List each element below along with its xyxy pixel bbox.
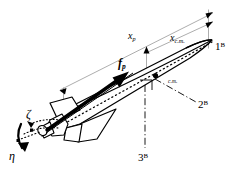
arrowhead-outer-left — [60, 88, 67, 95]
label-eta: η — [9, 150, 15, 162]
zeta-arrowhead — [27, 121, 34, 128]
eta-square-marker-2 — [17, 139, 20, 142]
arrowhead-xcm-right — [206, 22, 214, 29]
arrowhead-outer-right — [206, 12, 214, 19]
label-zeta: ζ — [26, 108, 31, 120]
label-axis-1B: 1B — [215, 41, 225, 52]
label-x-cm: xc.m. — [170, 33, 185, 43]
label-axis-2B: 2B — [198, 99, 208, 110]
rocket-hull — [62, 40, 212, 128]
eta-square-marker — [30, 129, 33, 132]
label-axis-3B: 3B — [138, 152, 148, 163]
rocket-diagram-figure: xp xc.m. fp c.m. 1B 2B 3B ζ η — [0, 0, 242, 178]
body-axes — [145, 79, 196, 148]
label-center-of-mass: c.m. — [168, 79, 178, 85]
rocket-body — [62, 40, 212, 128]
eta-dotted-line — [18, 132, 40, 140]
eta-arrowhead — [18, 142, 29, 152]
center-of-mass-dot — [153, 73, 158, 78]
label-x-p: xp — [128, 31, 136, 41]
diagram-canvas — [0, 0, 242, 178]
label-thrust-force: fp — [118, 57, 126, 69]
